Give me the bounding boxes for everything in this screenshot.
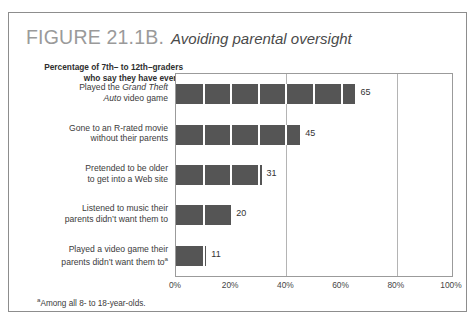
bar-row[interactable]: 65	[176, 84, 452, 104]
bar-value-label: 11	[211, 249, 220, 259]
bar-value-label: 65	[360, 87, 370, 97]
x-tick-60%: 60%	[332, 280, 349, 290]
category-label: Played a video game theirparents didn’t …	[18, 244, 168, 268]
bar-value-label: 31	[267, 168, 277, 178]
category-label: Listened to music theirparents didn’t wa…	[18, 203, 168, 224]
bar[interactable]	[176, 84, 355, 104]
x-tick-20%: 20%	[222, 280, 239, 290]
footnote-text: Among all 8- to 18-year-olds.	[40, 299, 145, 308]
bar-segment-separator	[203, 165, 205, 185]
bar-segment-separator	[258, 125, 260, 145]
bar-segment-separator	[230, 84, 232, 104]
bar-row[interactable]: 45	[176, 125, 452, 145]
bar[interactable]	[176, 205, 231, 225]
bar[interactable]	[176, 246, 206, 266]
bar[interactable]	[176, 165, 262, 185]
category-label: Played the Grand TheftAuto video game	[18, 82, 168, 103]
bar-segment-separator	[285, 125, 287, 145]
x-tick-40%: 40%	[277, 280, 294, 290]
category-label: Pretended to be olderto get into a Web s…	[18, 163, 168, 184]
bar-segment-separator	[230, 165, 232, 185]
x-tick-80%: 80%	[387, 280, 404, 290]
category-label: Gone to an R-rated moviewithout their pa…	[18, 123, 168, 144]
bar-segment-separator	[341, 84, 343, 104]
x-tick-0%: 0%	[169, 280, 181, 290]
figure-frame: FIGURE 21.1B.Avoiding parental oversight…	[8, 12, 467, 312]
figure-footnote: aAmong all 8- to 18-year-olds.	[37, 296, 146, 308]
chart-subtitle: Percentage of 7th– to 12th–graders who s…	[21, 62, 183, 83]
bar-segment-separator	[258, 165, 260, 185]
chart-plot-area: 6545312011	[175, 73, 453, 277]
figure-number: FIGURE 21.1B.	[26, 26, 164, 48]
x-tick-100%: 100%	[440, 280, 461, 290]
bar-row[interactable]: 11	[176, 246, 452, 266]
bar-segment-separator	[285, 84, 287, 104]
bar-segment-separator	[258, 84, 260, 104]
figure-caption: Avoiding parental oversight	[171, 30, 352, 47]
bar-segment-separator	[230, 125, 232, 145]
bar-row[interactable]: 20	[176, 205, 452, 225]
bar-row[interactable]: 31	[176, 165, 452, 185]
bar-segment-separator	[203, 205, 205, 225]
bar-segment-separator	[203, 246, 205, 266]
bar-value-label: 45	[305, 128, 315, 138]
bar-value-label: 20	[236, 208, 246, 218]
figure-heading: FIGURE 21.1B.Avoiding parental oversight	[26, 26, 352, 49]
bar[interactable]	[176, 125, 300, 145]
bar-segment-separator	[313, 84, 315, 104]
bar-segment-separator	[203, 125, 205, 145]
bar-segment-separator	[203, 84, 205, 104]
chart-subtitle-line-1: Percentage of 7th– to 12th–graders	[21, 62, 183, 73]
